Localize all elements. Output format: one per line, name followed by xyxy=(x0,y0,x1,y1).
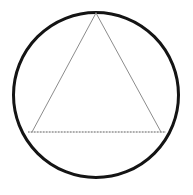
triangle-shape xyxy=(32,13,161,132)
circle-shape xyxy=(14,13,179,178)
geometry-figure: Equilateral triangle inscribed in a circ… xyxy=(0,0,193,195)
triangle-right-edge xyxy=(96,13,161,132)
triangle-left-edge xyxy=(32,13,96,132)
figure-svg xyxy=(0,0,193,195)
